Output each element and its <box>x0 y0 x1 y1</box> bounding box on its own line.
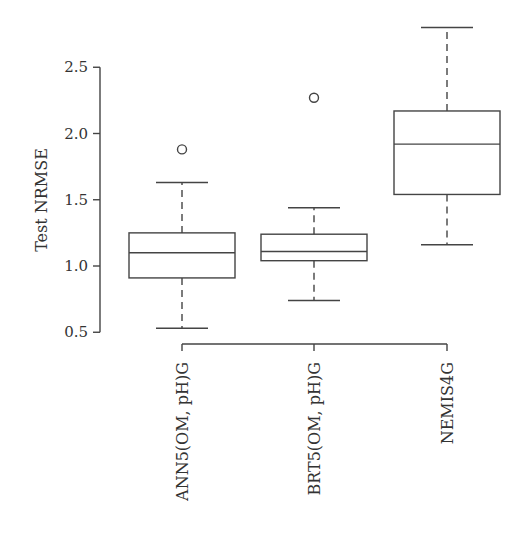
x-tick-label: NEMIS4G <box>438 362 457 444</box>
box-iqr <box>261 234 367 261</box>
box-iqr <box>129 233 235 278</box>
y-axis: 0.51.01.52.02.5 <box>64 58 100 341</box>
outlier-point <box>310 93 319 102</box>
y-tick-label: 1.0 <box>64 257 88 275</box>
y-axis-title: Test NRMSE <box>32 148 51 252</box>
x-tick-label: ANN5(OM, pH)G <box>173 362 192 502</box>
y-tick-label: 2.0 <box>64 125 88 143</box>
x-tick-label: BRT5(OM, pH)G <box>305 362 324 496</box>
y-tick-label: 1.5 <box>64 191 88 209</box>
boxes <box>129 28 500 329</box>
y-tick-label: 0.5 <box>64 323 88 341</box>
box-group <box>394 28 500 245</box>
outlier-point <box>178 145 187 154</box>
y-tick-label: 2.5 <box>64 58 88 76</box>
box-iqr <box>394 111 500 194</box>
boxplot-chart: Test NRMSE 0.51.01.52.02.5 ANN5(OM, pH)G… <box>0 0 521 553</box>
box-group <box>261 93 367 300</box>
box-group <box>129 145 235 328</box>
x-axis: ANN5(OM, pH)GBRT5(OM, pH)GNEMIS4G <box>173 344 457 502</box>
